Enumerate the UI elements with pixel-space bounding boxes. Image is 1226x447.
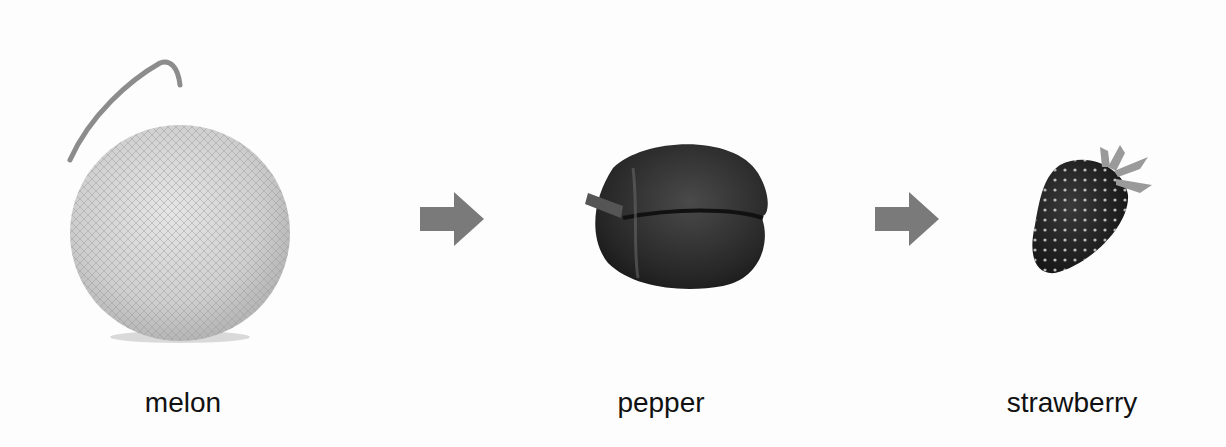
pepper-icon	[583, 138, 773, 293]
strawberry-label: strawberry	[1007, 387, 1138, 419]
right-arrow-icon	[875, 192, 939, 246]
sequence-arrow-1	[420, 192, 484, 250]
sequence-arrow-2	[875, 192, 939, 250]
strawberry-image	[1030, 145, 1155, 275]
strawberry-icon	[1030, 145, 1155, 275]
melon-label: melon	[145, 387, 221, 419]
pepper-image	[583, 138, 773, 293]
melon-image	[60, 55, 300, 350]
melon-icon	[60, 55, 300, 350]
right-arrow-icon	[420, 192, 484, 246]
pepper-label: pepper	[617, 387, 704, 419]
